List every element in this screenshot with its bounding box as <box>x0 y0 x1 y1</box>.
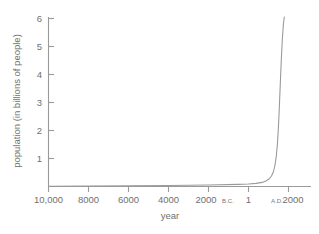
y-tick-label-4: 4 <box>37 69 42 80</box>
chart-canvas: 6 5 4 3 2 1 10,000 8000 6000 4000 2000 B… <box>0 0 319 234</box>
y-tick-label-2: 2 <box>37 125 42 136</box>
x-tick-label-4000bc: 4000 <box>158 194 179 205</box>
x-tick-label-10000bc: 10,000 <box>34 194 63 205</box>
x-tick-era-bc: B.C. <box>222 197 234 204</box>
population-curve <box>49 17 285 186</box>
x-tick-label-2000bc: 2000 <box>195 194 216 205</box>
population-chart: 6 5 4 3 2 1 10,000 8000 6000 4000 2000 B… <box>0 0 319 234</box>
x-tick-label-8000bc: 8000 <box>78 194 99 205</box>
x-tick-label-6000bc: 6000 <box>118 194 139 205</box>
x-axis-title: year <box>161 210 179 221</box>
y-axis-title: population (in billions of people) <box>11 34 22 168</box>
y-tick-label-1: 1 <box>37 153 42 164</box>
y-tick-label-6: 6 <box>37 13 42 24</box>
y-tick-label-5: 5 <box>37 41 42 52</box>
x-tick-label-2000ad: 2000 <box>282 194 303 205</box>
x-tick-label-year1: 1 <box>246 194 251 205</box>
y-tick-label-3: 3 <box>37 97 42 108</box>
